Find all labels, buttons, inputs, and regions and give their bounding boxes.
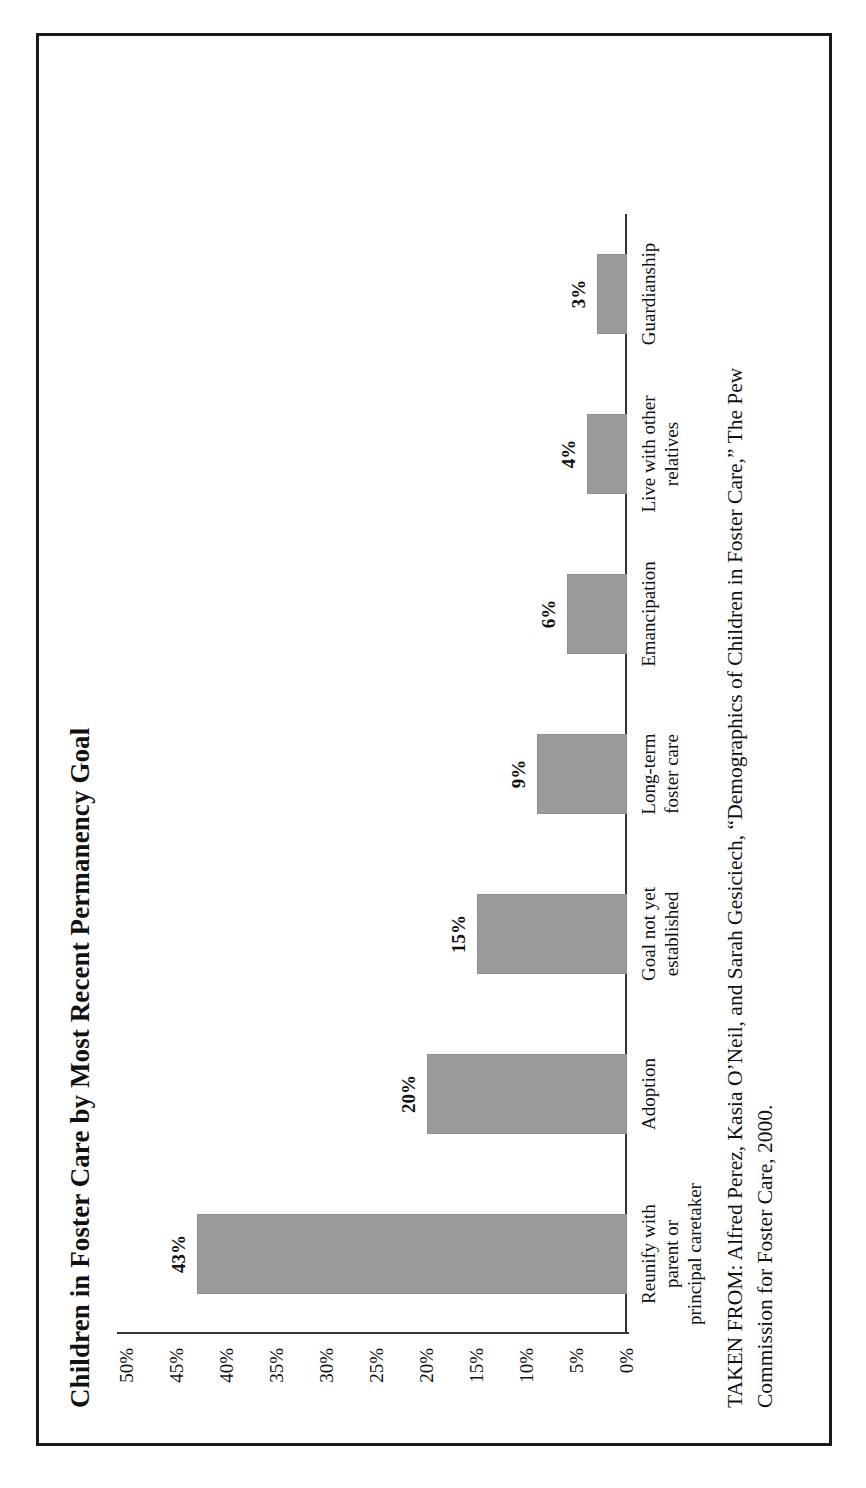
x-axis-category-labels: Reunify withparent orprincipal caretaker… bbox=[637, 214, 717, 1334]
bar-slot: 4% bbox=[127, 414, 627, 494]
bar-slot: 43% bbox=[127, 1214, 627, 1294]
bar[interactable] bbox=[477, 894, 627, 974]
x-category-label-line: relatives bbox=[660, 374, 683, 534]
y-tick-label: 5% bbox=[566, 1348, 588, 1373]
y-tick-label: 10% bbox=[516, 1348, 538, 1383]
x-category-label: Adoption bbox=[637, 1014, 660, 1174]
y-tick-label: 0% bbox=[616, 1348, 638, 1373]
bar[interactable] bbox=[587, 414, 627, 494]
chart-title: Children in Foster Care by Most Recent P… bbox=[65, 727, 96, 1407]
bar-value-label: 43% bbox=[168, 1214, 190, 1294]
bar-value-label: 4% bbox=[558, 414, 580, 494]
bar-slot: 3% bbox=[127, 254, 627, 334]
bar[interactable] bbox=[197, 1214, 627, 1294]
y-tick-label: 35% bbox=[266, 1348, 288, 1383]
x-category-label-line: Emancipation bbox=[637, 534, 660, 694]
bar-value-label: 6% bbox=[538, 574, 560, 654]
x-category-label: Live with otherrelatives bbox=[637, 374, 683, 534]
y-tick-label: 50% bbox=[116, 1348, 138, 1383]
y-tick-label: 15% bbox=[466, 1348, 488, 1383]
x-category-label-line: principal caretaker bbox=[683, 1174, 706, 1334]
x-category-label: Goal not yetestablished bbox=[637, 854, 683, 1014]
source-caption: TAKEN FROM: Alfred Perez, Kasia O’Neil, … bbox=[721, 78, 780, 1408]
x-category-label-line: established bbox=[660, 854, 683, 1014]
y-tick-label: 30% bbox=[316, 1348, 338, 1383]
x-category-label: Emancipation bbox=[637, 534, 660, 694]
bar[interactable] bbox=[427, 1054, 627, 1134]
caption-line-2: Commission for Foster Care, 2000. bbox=[751, 78, 781, 1408]
bar-value-label: 20% bbox=[398, 1054, 420, 1134]
bar[interactable] bbox=[537, 734, 627, 814]
bar-value-label: 3% bbox=[568, 254, 590, 334]
bar-slot: 6% bbox=[127, 574, 627, 654]
x-category-label-line: Reunify with bbox=[637, 1174, 660, 1334]
x-category-label: Long-termfoster care bbox=[637, 694, 683, 854]
y-tick-label: 45% bbox=[166, 1348, 188, 1383]
bar-slot: 20% bbox=[127, 1054, 627, 1134]
page-frame: Children in Foster Care by Most Recent P… bbox=[36, 33, 832, 1446]
plot-area: 50%45%40%35%30%25%20%15%10%5%0% 43%20%15… bbox=[127, 214, 627, 1334]
x-category-label-line: Long-term bbox=[637, 694, 660, 854]
y-tick-label: 20% bbox=[416, 1348, 438, 1383]
bar-series: 43%20%15%9%6%4%3% bbox=[127, 214, 627, 1334]
x-category-label-line: parent or bbox=[660, 1174, 683, 1334]
figure: Children in Foster Care by Most Recent P… bbox=[49, 50, 819, 1430]
y-tick-label: 25% bbox=[366, 1348, 388, 1383]
rotated-figure-stage: Children in Foster Care by Most Recent P… bbox=[49, 50, 819, 1430]
bar[interactable] bbox=[567, 574, 627, 654]
bar-value-label: 15% bbox=[448, 894, 470, 974]
x-category-label-line: Goal not yet bbox=[637, 854, 660, 1014]
bar-value-label: 9% bbox=[508, 734, 530, 814]
x-category-label-line: Guardianship bbox=[637, 214, 660, 374]
x-category-label: Reunify withparent orprincipal caretaker bbox=[637, 1174, 707, 1334]
caption-line-1: TAKEN FROM: Alfred Perez, Kasia O’Neil, … bbox=[721, 78, 751, 1408]
x-category-label: Guardianship bbox=[637, 214, 660, 374]
bar[interactable] bbox=[597, 254, 627, 334]
x-category-label-line: Adoption bbox=[637, 1014, 660, 1174]
y-tick-label: 40% bbox=[216, 1348, 238, 1383]
bar-slot: 15% bbox=[127, 894, 627, 974]
x-category-label-line: foster care bbox=[660, 694, 683, 854]
x-category-label-line: Live with other bbox=[637, 374, 660, 534]
bar-slot: 9% bbox=[127, 734, 627, 814]
